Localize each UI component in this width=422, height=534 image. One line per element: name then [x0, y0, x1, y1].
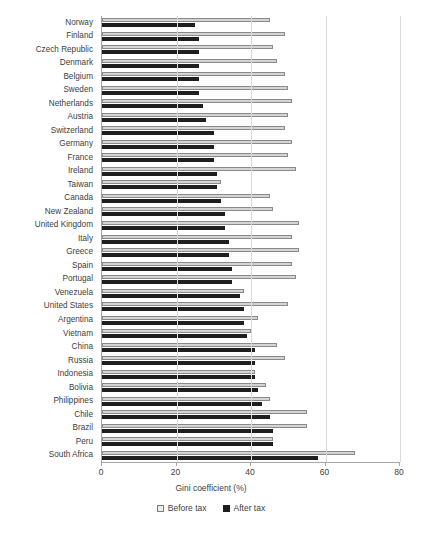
category-label: Vietnam [0, 327, 97, 341]
bar-after-tax[interactable] [102, 334, 247, 338]
category-label: Spain [0, 259, 97, 273]
bar-before-tax[interactable] [102, 32, 285, 36]
bar-before-tax[interactable] [102, 221, 299, 225]
bar-before-tax[interactable] [102, 72, 285, 76]
bar-after-tax[interactable] [102, 212, 225, 216]
bar-after-tax[interactable] [102, 429, 273, 433]
bar-before-tax[interactable] [102, 126, 285, 130]
bar-after-tax[interactable] [102, 23, 195, 27]
legend-label-after-tax: After tax [234, 503, 266, 513]
category-label: Greece [0, 246, 97, 260]
bar-after-tax[interactable] [102, 361, 255, 365]
bar-after-tax[interactable] [102, 77, 199, 81]
gridline [400, 16, 401, 462]
plot-wrapper: NorwayFinlandCzech RepublicDenmarkBelgiu… [0, 0, 422, 480]
chart-legend: Before tax After tax [0, 503, 422, 513]
bar-after-tax[interactable] [102, 267, 232, 271]
bar-before-tax[interactable] [102, 424, 307, 428]
bar-before-tax[interactable] [102, 140, 292, 144]
x-tick-label: 60 [320, 467, 329, 477]
bar-before-tax[interactable] [102, 167, 296, 171]
category-label: Portugal [0, 273, 97, 287]
category-axis-labels: NorwayFinlandCzech RepublicDenmarkBelgiu… [0, 16, 97, 462]
x-tick-label: 20 [171, 467, 180, 477]
category-label: Russia [0, 354, 97, 368]
legend-item-before-tax: Before tax [157, 503, 207, 513]
bar-after-tax[interactable] [102, 185, 217, 189]
category-label: Switzerland [0, 124, 97, 138]
bar-before-tax[interactable] [102, 370, 255, 374]
bar-before-tax[interactable] [102, 86, 288, 90]
bar-after-tax[interactable] [102, 118, 206, 122]
category-label: Taiwan [0, 178, 97, 192]
bar-before-tax[interactable] [102, 235, 292, 239]
x-tick-label: 40 [245, 467, 254, 477]
bar-after-tax[interactable] [102, 131, 214, 135]
bar-after-tax[interactable] [102, 280, 232, 284]
bar-after-tax[interactable] [102, 388, 258, 392]
bar-before-tax[interactable] [102, 194, 270, 198]
category-label: Belgium [0, 70, 97, 84]
bar-after-tax[interactable] [102, 402, 262, 406]
bar-after-tax[interactable] [102, 64, 199, 68]
bar-before-tax[interactable] [102, 410, 307, 414]
bar-before-tax[interactable] [102, 99, 292, 103]
bar-after-tax[interactable] [102, 456, 318, 460]
bar-before-tax[interactable] [102, 262, 292, 266]
bar-before-tax[interactable] [102, 397, 270, 401]
bar-after-tax[interactable] [102, 348, 255, 352]
bar-after-tax[interactable] [102, 415, 270, 419]
category-label: Philippines [0, 394, 97, 408]
category-label: Canada [0, 192, 97, 206]
x-tick [101, 462, 102, 466]
category-label: Bolivia [0, 381, 97, 395]
bar-after-tax[interactable] [102, 50, 199, 54]
category-label: New Zealand [0, 205, 97, 219]
bar-after-tax[interactable] [102, 442, 273, 446]
bar-after-tax[interactable] [102, 158, 214, 162]
bar-before-tax[interactable] [102, 356, 285, 360]
bar-after-tax[interactable] [102, 104, 203, 108]
bar-after-tax[interactable] [102, 91, 199, 95]
bar-before-tax[interactable] [102, 289, 244, 293]
category-label: Czech Republic [0, 43, 97, 57]
bar-before-tax[interactable] [102, 153, 288, 157]
bar-after-tax[interactable] [102, 145, 214, 149]
category-label: Sweden [0, 84, 97, 98]
category-label: Brazil [0, 421, 97, 435]
bar-before-tax[interactable] [102, 113, 288, 117]
bar-before-tax[interactable] [102, 207, 273, 211]
bar-before-tax[interactable] [102, 180, 221, 184]
category-label: Argentina [0, 313, 97, 327]
gridline [326, 16, 327, 462]
bar-before-tax[interactable] [102, 451, 355, 455]
bar-before-tax[interactable] [102, 18, 270, 22]
category-label: United States [0, 300, 97, 314]
bar-before-tax[interactable] [102, 316, 258, 320]
bar-before-tax[interactable] [102, 302, 288, 306]
bar-before-tax[interactable] [102, 383, 266, 387]
category-label: Austria [0, 111, 97, 125]
bar-after-tax[interactable] [102, 253, 229, 257]
gini-coefficient-bar-chart: NorwayFinlandCzech RepublicDenmarkBelgiu… [0, 0, 422, 534]
bar-after-tax[interactable] [102, 226, 225, 230]
category-label: Italy [0, 232, 97, 246]
bar-after-tax[interactable] [102, 240, 229, 244]
bar-after-tax[interactable] [102, 307, 244, 311]
x-tick-label: 80 [394, 467, 403, 477]
category-label: Ireland [0, 165, 97, 179]
bar-after-tax[interactable] [102, 294, 240, 298]
x-tick [250, 462, 251, 466]
bar-after-tax[interactable] [102, 321, 244, 325]
bar-before-tax[interactable] [102, 248, 299, 252]
bar-after-tax[interactable] [102, 199, 221, 203]
bar-before-tax[interactable] [102, 437, 273, 441]
gridline [251, 16, 252, 462]
bar-before-tax[interactable] [102, 275, 296, 279]
bar-after-tax[interactable] [102, 37, 199, 41]
x-tick [325, 462, 326, 466]
bar-before-tax[interactable] [102, 45, 273, 49]
gridline [177, 16, 178, 462]
bar-after-tax[interactable] [102, 172, 217, 176]
bar-after-tax[interactable] [102, 375, 255, 379]
